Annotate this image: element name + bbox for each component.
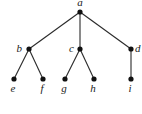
node-label-h: h [90,82,96,94]
node-b [26,46,31,51]
node-a [77,9,82,14]
node-label-f: f [40,82,45,94]
tree-diagram: abcdefghi [0,0,142,114]
node-i [128,76,133,81]
node-label-i: i [128,82,131,94]
node-e [11,76,16,81]
node-g [62,76,67,81]
edge-b-f [29,49,43,79]
node-label-a: a [77,0,83,8]
edge-a-d [80,12,131,49]
node-label-e: e [11,82,16,94]
node-d [128,46,133,51]
node-c [77,46,82,51]
node-label-b: b [17,42,23,54]
node-label-c: c [69,42,74,54]
edge-c-h [80,49,94,79]
node-f [40,76,45,81]
node-label-g: g [61,82,67,94]
node-h [91,76,96,81]
node-label-d: d [135,42,141,54]
